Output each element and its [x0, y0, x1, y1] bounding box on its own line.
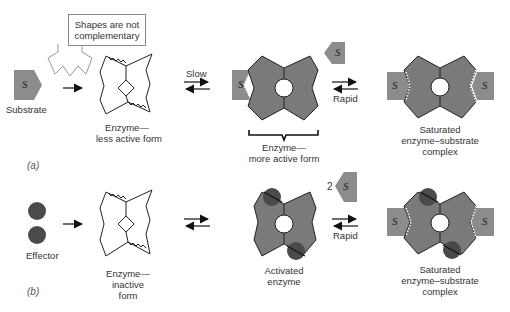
slow-label: Slow — [186, 68, 207, 79]
label-line: Saturated — [400, 124, 480, 135]
label-line: Activated — [256, 265, 312, 276]
callout-line2: complementary — [75, 30, 140, 41]
callout-pointer-icon — [48, 44, 92, 76]
label-line: enzyme–substrate — [400, 275, 480, 286]
complex-label: Saturated enzyme–substrate complex — [400, 124, 480, 157]
callout-box: Shapes are not complementary — [68, 14, 146, 46]
enzyme-more-active-shape — [248, 56, 318, 120]
callout-line1: Shapes are not — [75, 19, 140, 30]
free-substrate-glyph-b: S — [343, 181, 349, 192]
effector-label: Effector — [26, 250, 59, 261]
enzyme-inactive-shape — [100, 190, 152, 256]
bound-substrate-glyph: S — [238, 79, 244, 90]
enzyme-more-active-label: Enzyme— more active form — [246, 142, 322, 164]
panel-label-b: (b) — [27, 286, 39, 297]
equilibrium-arrows-rapid-icon — [332, 82, 358, 89]
complex-substrate-glyph-right-b: S — [482, 216, 488, 227]
substrate-shape — [14, 70, 42, 100]
enzyme-less-active-label: Enzyme— less active form — [96, 122, 158, 144]
free-substrate-glyph: S — [335, 47, 341, 58]
label-line: enzyme–substrate — [400, 135, 480, 146]
label-line: inactive — [100, 279, 156, 290]
complex-substrate-glyph-left: S — [392, 80, 398, 91]
rapid-label: Rapid — [333, 93, 358, 104]
label-line: complex — [400, 146, 480, 157]
equilibrium-arrows-icon — [184, 219, 210, 226]
label-line: more active form — [246, 153, 322, 164]
complex-label-b: Saturated enzyme–substrate complex — [400, 264, 480, 297]
label-line: Enzyme— — [100, 268, 156, 279]
complex-substrate-glyph-left-b: S — [392, 216, 398, 227]
label-line: form — [100, 290, 156, 301]
panel-label-a: (a) — [27, 160, 39, 171]
enzyme-inactive-label: Enzyme— inactive form — [100, 268, 156, 301]
rapid-label-b: Rapid — [333, 230, 358, 241]
complex-substrate-glyph-right: S — [482, 80, 488, 91]
brace-icon — [249, 130, 318, 140]
label-line: complex — [400, 286, 480, 297]
substrate-glyph: S — [22, 79, 28, 90]
effector-molecules-shape — [28, 202, 46, 244]
equilibrium-arrows-rapid-icon-b — [332, 219, 358, 226]
activated-enzyme-shape — [254, 188, 316, 260]
substrate-count: 2 — [327, 181, 333, 192]
saturated-complex-shape-b — [387, 188, 494, 259]
equilibrium-arrows-slow-icon — [184, 82, 210, 89]
activated-enzyme-label: Activated enzyme — [256, 265, 312, 287]
substrate-label: Substrate — [6, 104, 47, 115]
label-line: Saturated — [400, 264, 480, 275]
label-line: Enzyme— — [96, 122, 158, 133]
label-line: less active form — [96, 133, 158, 144]
label-line: enzyme — [256, 276, 312, 287]
saturated-complex-shape — [387, 56, 494, 118]
label-line: Enzyme— — [246, 142, 322, 153]
enzyme-less-active-shape — [100, 54, 152, 114]
